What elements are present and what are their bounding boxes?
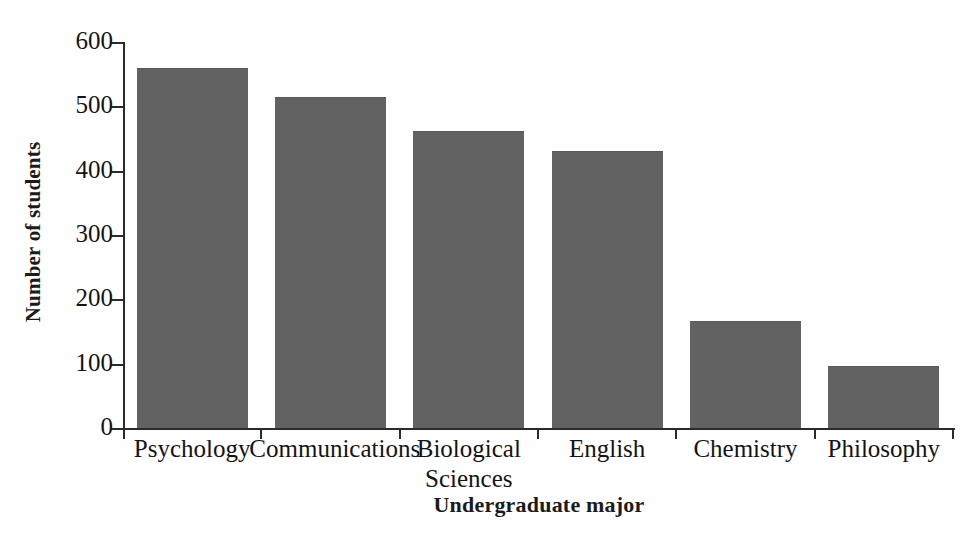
plot-area: 0100200300400500600 [123,42,953,428]
y-tick-label: 600 [76,27,114,55]
bar [552,151,663,428]
y-axis-title: Number of students [20,39,46,425]
x-category-label: Philosophy [803,434,965,464]
y-tick-label: 200 [76,284,114,312]
bar [413,131,524,428]
bar [275,97,386,428]
bar [137,68,248,428]
x-category-label-line: Sciences [388,464,550,494]
x-axis-line [123,428,955,430]
bar-chart: Number of students 0100200300400500600 P… [0,0,970,535]
y-tick-label: 300 [76,220,114,248]
y-tick-label: 500 [76,91,114,119]
y-tick-label: 100 [76,349,114,377]
bar [690,321,801,428]
x-category-label-line: Philosophy [803,434,965,464]
bar [828,366,939,428]
x-axis-title: Undergraduate major [123,492,955,518]
y-tick-label: 400 [76,156,114,184]
